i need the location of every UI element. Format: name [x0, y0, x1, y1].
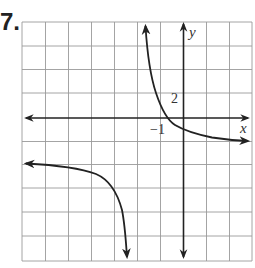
axes	[26, 24, 248, 257]
graph: y x 2 −1	[0, 0, 255, 268]
x-axis-label: x	[239, 120, 247, 136]
left-branch	[26, 164, 127, 258]
tick-label-x-neg1: −1	[150, 122, 165, 137]
y-axis-label: y	[187, 24, 196, 40]
grid	[22, 22, 252, 261]
tick-label-y-2: 2	[171, 91, 178, 106]
